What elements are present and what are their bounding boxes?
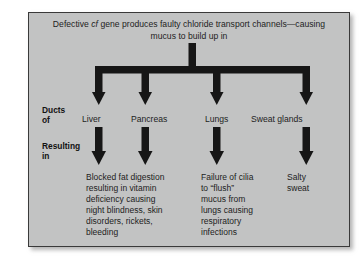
- result-stem-liver-icon: [95, 127, 103, 153]
- branch-stem-pancreas-icon: [142, 69, 150, 93]
- row-label-resulting-in: Resulting in: [42, 141, 80, 162]
- result-stem-sweat-glands-icon: [303, 127, 311, 153]
- result-arrowhead-sweat-glands-icon: [299, 151, 314, 165]
- trunk-stem-icon: [189, 43, 197, 69]
- horizontal-bus-icon: [95, 66, 310, 74]
- organ-label-liver: Liver: [82, 114, 101, 124]
- outcome-text-sweat-glands: Salty sweat: [287, 172, 347, 194]
- branch-arrowhead-sweat-glands-icon: [300, 92, 314, 105]
- branch-stem-lungs-icon: [213, 69, 221, 93]
- figure-canvas: Defective cf gene produces faulty chlori…: [0, 0, 364, 275]
- branch-stem-liver-icon: [95, 66, 103, 93]
- organ-label-pancreas: Pancreas: [131, 114, 167, 124]
- result-stem-pancreas-icon: [142, 127, 150, 153]
- outcome-text-liver-pancreas: Blocked fat digestion resulting in vitam…: [86, 172, 191, 239]
- row-label-ducts-of: Ducts of: [42, 105, 65, 126]
- outcome-text-lungs: Failure of cilia to “flush” mucus from l…: [201, 172, 279, 239]
- branch-arrowhead-lungs-icon: [210, 92, 224, 105]
- result-stem-lungs-icon: [213, 127, 221, 153]
- result-arrowhead-lungs-icon: [210, 151, 225, 165]
- branch-arrowhead-pancreas-icon: [139, 92, 153, 105]
- organ-label-sweat-glands: Sweat glands: [251, 114, 303, 124]
- result-arrowhead-liver-icon: [92, 151, 107, 165]
- result-arrowhead-pancreas-icon: [138, 151, 153, 165]
- branch-arrowhead-liver-icon: [92, 92, 106, 105]
- branch-stem-sweat-glands-icon: [303, 66, 311, 93]
- organ-label-lungs: Lungs: [205, 114, 228, 124]
- diagram-panel: Defective cf gene produces faulty chlori…: [28, 12, 350, 247]
